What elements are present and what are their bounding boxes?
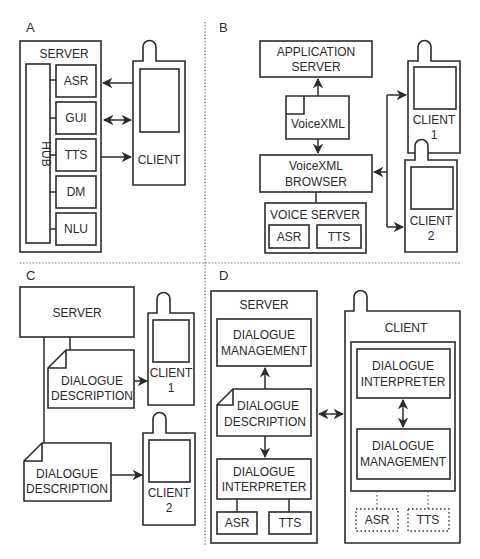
a-hub-label: HUB: [39, 141, 53, 166]
b-document-label: VoiceXML: [291, 117, 345, 131]
b-browser-line1: VoiceXML: [289, 159, 343, 173]
d-server-label: SERVER: [239, 298, 288, 312]
d-client-tts-label: TTS: [417, 513, 440, 527]
d-server-dm-box: [217, 319, 311, 366]
c-doc1-line2: DESCRIPTION: [51, 389, 133, 403]
d-client-di-line1: DIALOGUE: [372, 359, 434, 373]
d-server-di-line2: INTERPRETER: [222, 480, 307, 494]
panel-label-b: B: [219, 20, 228, 35]
d-server-di-line1: DIALOGUE: [233, 465, 295, 479]
d-server-asr-label: ASR: [225, 516, 250, 530]
b-asr-label: ASR: [277, 230, 302, 244]
panel-d: D SERVER DIALOGUE MANAGEMENT DIALOGUE DE…: [211, 268, 460, 543]
a-module-asr-label: ASR: [64, 74, 89, 88]
panel-c: C SERVER DIALOGUE DESCRIPTION CLIENT 1 D…: [20, 268, 195, 525]
c-doc1-line1: DIALOGUE: [61, 374, 123, 388]
a-module-gui-label: GUI: [65, 111, 86, 125]
panel-label-a: A: [26, 20, 35, 35]
b-client2-line2: 2: [428, 229, 435, 243]
b-tts-label: TTS: [328, 230, 351, 244]
panel-a: A SERVER HUB ASR GUI TTS DM NLU CLIENT: [20, 20, 185, 252]
a-server-label: SERVER: [39, 47, 88, 61]
architecture-diagram: A SERVER HUB ASR GUI TTS DM NLU CLIENT: [0, 0, 480, 559]
b-browser-line2: BROWSER: [285, 175, 347, 189]
d-client-label: CLIENT: [385, 321, 428, 335]
panel-label-d: D: [219, 268, 228, 283]
b-client2-line1: CLIENT: [410, 214, 453, 228]
b-client1-line1: CLIENT: [413, 113, 456, 127]
d-server-dm-line1: DIALOGUE: [233, 328, 295, 342]
a-module-nlu-label: NLU: [64, 222, 88, 236]
a-module-tts-label: TTS: [65, 148, 88, 162]
d-client-di-line2: INTERPRETER: [361, 375, 446, 389]
c-client2-line1: CLIENT: [148, 486, 191, 500]
d-client-dm-line2: MANAGEMENT: [360, 455, 447, 469]
a-module-dm-label: DM: [67, 185, 86, 199]
b-client1-line2: 1: [431, 128, 438, 142]
b-app-server-line1: APPLICATION: [277, 45, 355, 59]
d-client-dm-line1: DIALOGUE: [372, 439, 434, 453]
c-client1-line1: CLIENT: [150, 366, 193, 380]
panel-label-c: C: [26, 268, 35, 283]
d-server-dm-line2: MANAGEMENT: [221, 344, 308, 358]
d-server-tts-label: TTS: [279, 516, 302, 530]
a-client-label: CLIENT: [138, 153, 181, 167]
c-client2-line2: 2: [166, 501, 173, 515]
d-client-asr-label: ASR: [365, 513, 390, 527]
panel-b: B APPLICATION SERVER VoiceXML VoiceXML B…: [219, 20, 460, 253]
c-client1-line2: 1: [168, 381, 175, 395]
b-app-server-line2: SERVER: [291, 60, 340, 74]
c-doc2-line1: DIALOGUE: [36, 467, 98, 481]
d-client-dm-box: [357, 429, 450, 479]
b-voice-server-label: VOICE SERVER: [270, 208, 360, 222]
c-server-label: SERVER: [52, 306, 101, 320]
d-server-doc-line1: DIALOGUE: [237, 399, 299, 413]
c-doc2-line2: DESCRIPTION: [26, 482, 108, 496]
d-server-doc-line2: DESCRIPTION: [224, 415, 306, 429]
d-client-di-box: [357, 349, 450, 398]
